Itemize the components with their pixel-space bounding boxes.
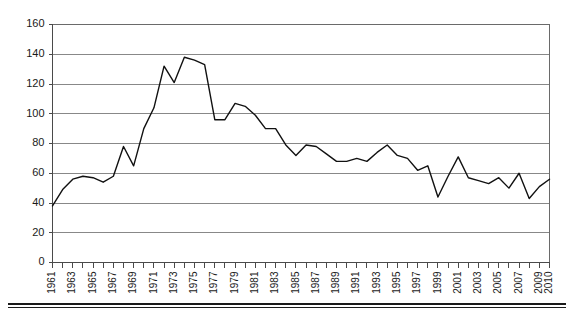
y-tick-label: 80 bbox=[32, 136, 44, 148]
y-tick-label: 20 bbox=[32, 226, 44, 238]
y-tick-label: 60 bbox=[32, 166, 44, 178]
chart-container: 020406080100120140160 196119631965196719… bbox=[0, 0, 574, 320]
x-tick-label: 2005 bbox=[492, 271, 503, 294]
x-tick-label: 1971 bbox=[148, 271, 159, 294]
x-tick-label: 1983 bbox=[269, 271, 280, 294]
x-tick-label: 1991 bbox=[350, 271, 361, 294]
x-tick-label: 2007 bbox=[513, 271, 524, 294]
x-tick-label: 1989 bbox=[330, 271, 341, 294]
chart-y-tick-labels: 020406080100120140160 bbox=[26, 17, 44, 267]
chart-gridlines bbox=[53, 25, 550, 233]
line-chart: 020406080100120140160 196119631965196719… bbox=[0, 0, 574, 320]
x-tick-label: 1963 bbox=[66, 271, 77, 294]
x-tick-label: 1967 bbox=[107, 271, 118, 294]
chart-x-tick-marks bbox=[53, 263, 550, 268]
x-tick-label: 1985 bbox=[290, 271, 301, 294]
footer-divider bbox=[8, 304, 566, 308]
y-tick-label: 120 bbox=[26, 77, 44, 89]
x-tick-label: 1965 bbox=[87, 271, 98, 294]
x-tick-label: 2001 bbox=[452, 271, 463, 294]
x-tick-label: 1999 bbox=[432, 271, 443, 294]
x-tick-label: 1969 bbox=[127, 271, 138, 294]
x-tick-label: 1993 bbox=[371, 271, 382, 294]
y-tick-label: 160 bbox=[26, 17, 44, 29]
y-tick-label: 40 bbox=[32, 196, 44, 208]
x-tick-label: 1987 bbox=[310, 271, 321, 294]
chart-y-tick-marks bbox=[49, 25, 53, 263]
series-line-1 bbox=[53, 57, 550, 206]
x-tick-label: 1975 bbox=[188, 271, 199, 294]
x-tick-label: 1977 bbox=[208, 271, 219, 294]
x-tick-label: 1973 bbox=[168, 271, 179, 294]
y-tick-label: 0 bbox=[38, 255, 44, 267]
x-tick-label: 1981 bbox=[249, 271, 260, 294]
chart-series-group bbox=[53, 57, 550, 206]
x-tick-label: 1997 bbox=[411, 271, 422, 294]
x-tick-label: 2010 bbox=[543, 271, 554, 294]
chart-x-tick-labels: 1961196319651967196919711973197519771979… bbox=[46, 271, 554, 294]
y-tick-label: 140 bbox=[26, 47, 44, 59]
x-tick-label: 1979 bbox=[229, 271, 240, 294]
x-tick-label: 2003 bbox=[472, 271, 483, 294]
x-tick-label: 1961 bbox=[46, 271, 57, 294]
x-tick-label: 1995 bbox=[391, 271, 402, 294]
y-tick-label: 100 bbox=[26, 107, 44, 119]
